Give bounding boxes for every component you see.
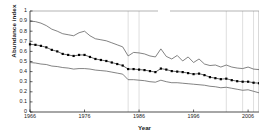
x-tick-label: 1996 (179, 114, 209, 119)
x-tick-label: 1976 (70, 114, 100, 119)
axis-frame (30, 11, 259, 112)
plot-area (30, 11, 259, 112)
chart-canvas (30, 11, 259, 112)
x-tick-label: 1966 (15, 114, 45, 119)
x-tick-label: 2006 (233, 114, 259, 119)
abundance-index-figure: Abundance index Year 00.10.20.30.40.50.6… (0, 0, 259, 133)
upper-confidence-line (30, 21, 259, 69)
mean-index-line (30, 44, 259, 83)
mean-index-markers (29, 43, 259, 84)
x-tick-marks (30, 110, 248, 113)
lower-confidence-line (30, 63, 259, 93)
y-tick-marks (30, 11, 33, 112)
x-tick-label: 1986 (124, 114, 154, 119)
vertical-gridlines (128, 11, 253, 112)
